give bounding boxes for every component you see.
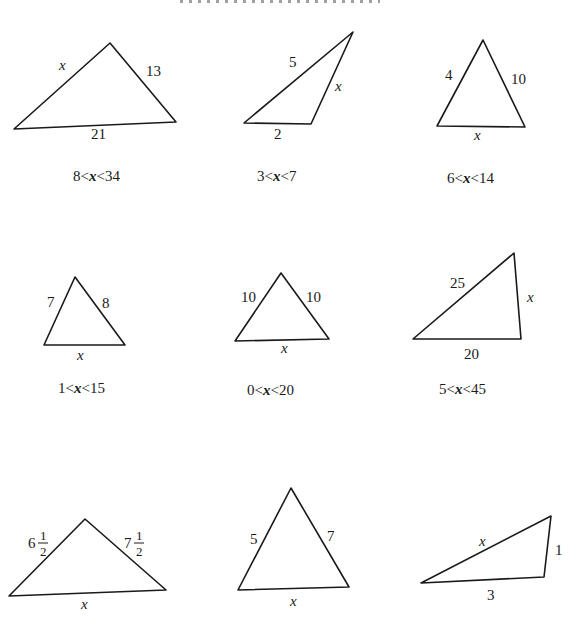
t1-side-base: 21 — [91, 126, 106, 142]
t6-side-top: 25 — [450, 275, 465, 291]
answer-range-3: 6<x<14 — [447, 170, 494, 187]
t7-side-base: x — [80, 596, 88, 612]
t1-side-left: x — [58, 57, 66, 73]
t9-side-base: 3 — [487, 587, 495, 603]
svg-text:6: 6 — [28, 535, 36, 551]
t9-side-right: 1 — [555, 542, 563, 558]
t4-side-left: 7 — [47, 294, 55, 310]
triangles-figure: x 13 21 5 x 2 4 10 x 7 8 x 10 10 x 25 x … — [0, 0, 569, 621]
answer-range-5: 0<x<20 — [247, 382, 294, 399]
triangle-4 — [44, 277, 125, 345]
t8-side-right: 7 — [327, 528, 335, 544]
svg-text:1: 1 — [136, 528, 143, 543]
t5-side-left: 10 — [241, 289, 256, 305]
t2-side-base: 2 — [274, 126, 282, 142]
t8-side-base: x — [289, 593, 297, 609]
t9-side-top: x — [478, 533, 486, 549]
answer-range-6: 5<x<45 — [439, 381, 486, 398]
t3-side-base: x — [473, 127, 481, 143]
answer-range-4: 1<x<15 — [58, 380, 105, 397]
triangle-9 — [421, 516, 551, 583]
svg-text:7: 7 — [124, 535, 132, 551]
t5-side-right: 10 — [306, 289, 321, 305]
t4-side-right: 8 — [102, 295, 110, 311]
triangle-1 — [14, 43, 176, 129]
t3-side-right: 10 — [511, 71, 526, 87]
t8-side-left: 5 — [250, 531, 258, 547]
t2-side-right: x — [334, 78, 342, 94]
svg-text:1: 1 — [40, 528, 47, 543]
t4-side-base: x — [76, 347, 84, 363]
svg-text:2: 2 — [40, 544, 47, 559]
answer-range-2: 3<x<7 — [257, 168, 296, 185]
t6-side-base: 20 — [464, 346, 479, 362]
answer-range-1: 8<x<34 — [73, 168, 120, 185]
triangle-6 — [413, 253, 521, 339]
t3-side-left: 4 — [445, 67, 453, 83]
t6-side-right: x — [526, 289, 534, 305]
triangle-5 — [235, 273, 329, 341]
t7-side-right: 7 1 2 — [124, 528, 144, 559]
t2-side-top: 5 — [289, 54, 297, 70]
t1-side-right: 13 — [146, 63, 161, 79]
t5-side-base: x — [280, 340, 288, 356]
t7-side-left: 6 1 2 — [28, 528, 48, 559]
svg-text:2: 2 — [136, 544, 143, 559]
